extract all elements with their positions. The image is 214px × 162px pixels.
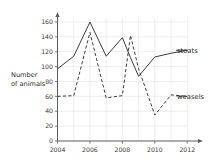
- x-tick-label: 2010: [147, 146, 163, 153]
- x-tick-label: 2012: [179, 146, 195, 153]
- y-tick-label: 120: [41, 48, 53, 55]
- y-axis-arrowhead: [55, 12, 59, 17]
- y-tick-label: 60: [45, 93, 53, 100]
- x-tick-label: 2004: [50, 146, 66, 153]
- series-label-weasels: weasels: [177, 93, 205, 101]
- series-label-stoats: stoats: [177, 47, 198, 55]
- y-tick-label: 20: [45, 122, 53, 129]
- y-tick-label: 0: [49, 137, 53, 144]
- x-axis-ticks: 20042006200820102012: [50, 141, 196, 153]
- line-chart: 020406080100120140160 200420062008201020…: [0, 0, 214, 162]
- x-axis-arrowhead: [198, 139, 203, 143]
- x-tick-label: 2008: [115, 146, 131, 153]
- y-tick-label: 100: [41, 63, 53, 70]
- chart-container: 020406080100120140160 200420062008201020…: [0, 0, 214, 162]
- y-tick-label: 40: [45, 107, 53, 114]
- y-tick-label: 80: [45, 78, 53, 85]
- grid-lines: [58, 18, 188, 141]
- x-tick-label: 2006: [82, 146, 98, 153]
- y-axis-title-line1: Number: [11, 71, 38, 79]
- y-tick-label: 160: [41, 18, 53, 25]
- y-axis-title-line2: of animals: [11, 80, 46, 88]
- series-leader-lines: [176, 50, 187, 96]
- axes: [55, 12, 203, 143]
- y-tick-label: 140: [41, 33, 53, 40]
